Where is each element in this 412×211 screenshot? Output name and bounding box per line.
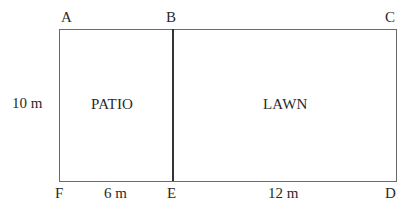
divider-line-be (172, 29, 174, 181)
patio-width-dimension-label: 6 m (104, 186, 127, 201)
point-label-a: A (61, 10, 72, 25)
point-label-f: F (55, 186, 63, 201)
lawn-width-dimension-label: 12 m (268, 186, 298, 201)
point-label-b: B (166, 10, 176, 25)
point-label-c: C (385, 10, 395, 25)
patio-region-label: PATIO (91, 96, 133, 113)
point-label-d: D (385, 186, 396, 201)
lawn-region-label: LAWN (263, 96, 308, 113)
height-dimension-label: 10 m (12, 96, 42, 111)
point-label-e: E (167, 186, 176, 201)
